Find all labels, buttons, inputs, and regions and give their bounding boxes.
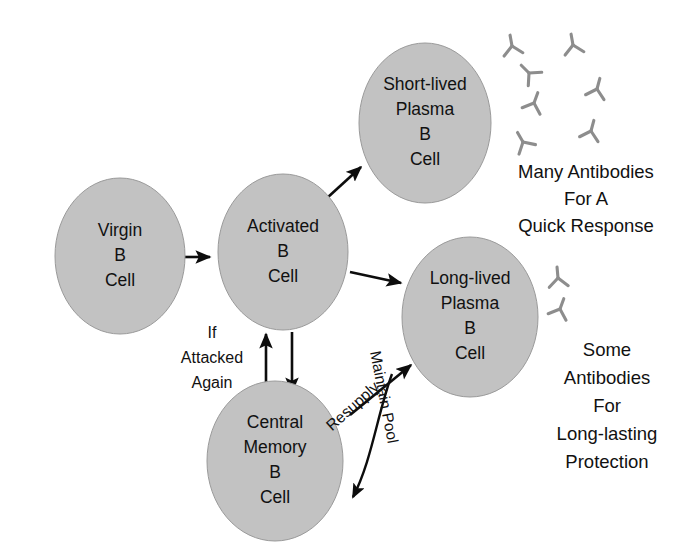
label-if-attacked-again-line: If [208,324,217,341]
caption-many-antibodies: Many AntibodiesFor AQuick Response [518,161,654,236]
long-lived-plasma-b-cell[interactable]: Long-livedPlasmaBCell [402,237,538,397]
cells-layer: VirginBCellActivatedBCellShort-livedPlas… [55,43,538,541]
caption-many-antibodies-line: Many Antibodies [518,161,654,182]
caption-some-antibodies-line: Protection [565,451,648,472]
antibody-icon [580,118,603,142]
diagram-canvas: VirginBCellActivatedBCellShort-livedPlas… [0,0,696,556]
virgin-b-cell[interactable]: VirginBCell [55,178,185,334]
antibody-icon [509,128,535,154]
caption-some-antibodies-line: For [593,395,621,416]
activated-b-cell-label-line: Cell [268,266,298,286]
antibody-cluster-some [548,266,573,320]
antibody-icon [501,34,523,57]
caption-some-antibodies: SomeAntibodiesForLong-lastingProtection [557,339,658,472]
antibody-icon [522,89,547,114]
antibody-icon [548,295,573,320]
virgin-b-cell-label-line: B [114,245,126,265]
short-lived-plasma-b-cell-label-line: B [419,124,431,144]
central-memory-b-cell[interactable]: CentralMemoryBCell [207,381,343,541]
central-memory-b-cell-label-line: Memory [243,437,306,457]
antibody-icon [562,33,584,56]
antibody-icon [586,76,609,100]
short-lived-plasma-b-cell-shape [359,43,491,203]
caption-some-antibodies-line: Some [583,339,631,360]
b-cell-flow-diagram: VirginBCellActivatedBCellShort-livedPlas… [0,0,696,556]
central-memory-b-cell-label-line: B [269,462,281,482]
arrow-activated-to-short-lived [327,167,361,198]
short-lived-plasma-b-cell-label-line: Plasma [396,99,455,119]
long-lived-plasma-b-cell-label-line: Plasma [441,293,500,313]
label-resupply: Resupply [323,378,383,434]
long-lived-plasma-b-cell-label-line: B [464,318,476,338]
label-if-attacked-again-line: Attacked [181,349,243,366]
captions-layer: Many AntibodiesFor AQuick ResponseSomeAn… [518,161,657,472]
long-lived-plasma-b-cell-label-line: Long-lived [430,268,511,288]
label-if-attacked-again-line: Again [192,374,233,391]
caption-many-antibodies-line: Quick Response [518,215,654,236]
arrow-activated-to-long-lived [350,272,401,283]
antibody-icon [515,59,542,86]
caption-some-antibodies-line: Antibodies [564,367,650,388]
central-memory-b-cell-label-line: Central [247,412,303,432]
short-lived-plasma-b-cell-label-line: Cell [410,149,440,169]
long-lived-plasma-b-cell-shape [402,237,538,397]
activated-b-cell-label-line: B [277,241,289,261]
short-lived-plasma-b-cell-label-line: Short-lived [383,74,467,94]
antibody-cluster-many [501,33,609,155]
caption-some-antibodies-line: Long-lasting [557,423,658,444]
virgin-b-cell-label-line: Cell [105,270,135,290]
central-memory-b-cell-label-line: Cell [260,487,290,507]
long-lived-plasma-b-cell-label-line: Cell [455,343,485,363]
activated-b-cell-label-line: Activated [247,216,319,236]
activated-b-cell[interactable]: ActivatedBCell [218,174,348,330]
virgin-b-cell-label-line: Virgin [98,220,142,240]
central-memory-b-cell-shape [207,381,343,541]
caption-many-antibodies-line: For A [564,188,609,209]
short-lived-plasma-b-cell[interactable]: Short-livedPlasmaBCell [359,43,491,203]
antibody-icon [548,266,569,287]
